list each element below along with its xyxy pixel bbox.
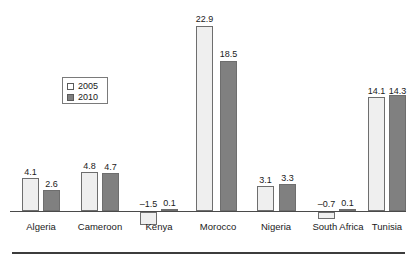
chart-legend: 2005 2010 (62, 77, 108, 104)
bar-nigeria-2005[interactable] (257, 186, 274, 211)
category-label-algeria: Algeria (16, 221, 66, 232)
legend-swatch-2010-icon (67, 94, 74, 101)
value-label-morocco-2010: 18.5 (214, 49, 243, 59)
bar-cameroon-2010[interactable] (102, 173, 119, 211)
category-label-kenya: Kenya (134, 221, 184, 232)
legend-label-2005: 2005 (78, 81, 98, 91)
bar-group-tunisia: 14.1 14.3 Tunisia (362, 0, 412, 232)
bar-group-nigeria: 3.1 3.3 Nigeria (250, 0, 302, 232)
category-label-nigeria: Nigeria (250, 221, 302, 232)
legend-entry-2005[interactable]: 2005 (67, 81, 103, 91)
bar-tunisia-2005[interactable] (368, 97, 385, 211)
bar-group-kenya: –1.5 0.1 Kenya (134, 0, 184, 232)
value-label-kenya-2010: 0.1 (155, 198, 184, 208)
bar-morocco-2010[interactable] (220, 61, 237, 211)
legend-entry-2010[interactable]: 2010 (67, 92, 103, 102)
category-label-morocco: Morocco (190, 221, 246, 232)
value-label-nigeria-2010: 3.3 (273, 173, 302, 183)
legend-swatch-2005-icon (67, 83, 74, 90)
figure-bottom-rule (12, 252, 405, 254)
category-label-tunisia: Tunisia (362, 221, 412, 232)
bar-group-algeria: 4.1 2.6 Algeria (16, 0, 66, 232)
bar-group-cameroon: 4.8 4.7 Cameroon (72, 0, 128, 232)
chart-figure: 4.1 2.6 Algeria 4.8 4.7 Cameroon –1.5 0.… (0, 0, 417, 262)
bar-south-africa-2010[interactable] (339, 209, 356, 211)
value-label-algeria-2010: 2.6 (37, 179, 66, 189)
plot-area: 4.1 2.6 Algeria 4.8 4.7 Cameroon –1.5 0.… (10, 0, 406, 232)
bar-south-africa-2005[interactable] (318, 212, 335, 219)
legend-label-2010: 2010 (78, 92, 98, 102)
value-label-cameroon-2010: 4.7 (96, 162, 125, 172)
bar-tunisia-2010[interactable] (389, 95, 406, 211)
category-label-cameroon: Cameroon (72, 221, 128, 232)
value-label-south-africa-2010: 0.1 (333, 198, 362, 208)
bar-cameroon-2005[interactable] (81, 172, 98, 211)
value-label-algeria-2005: 4.1 (16, 167, 45, 177)
bar-group-morocco: 22.9 18.5 Morocco (190, 0, 246, 232)
bar-group-south-africa: –0.7 0.1 South Africa (306, 0, 370, 232)
value-label-tunisia-2010: 14.3 (383, 86, 412, 96)
value-label-morocco-2005: 22.9 (190, 14, 219, 24)
category-label-south-africa: South Africa (306, 221, 370, 232)
bar-algeria-2010[interactable] (43, 190, 60, 211)
bar-kenya-2010[interactable] (161, 209, 178, 211)
bar-morocco-2005[interactable] (196, 26, 213, 211)
bar-nigeria-2010[interactable] (279, 184, 296, 211)
